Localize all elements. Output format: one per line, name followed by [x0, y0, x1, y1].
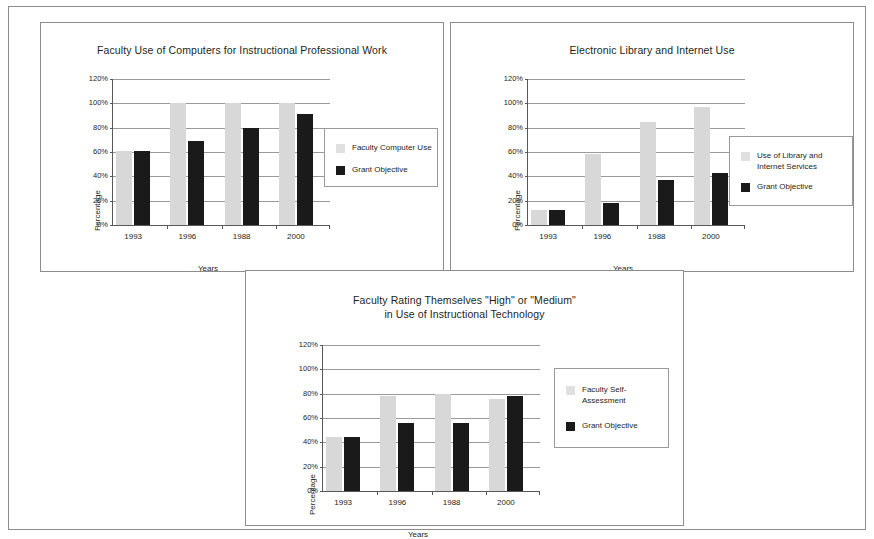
- y-axis-tick-label: 60%: [508, 148, 523, 156]
- chart-title: Electronic Library and Internet Use: [451, 44, 853, 58]
- x-axis-tick-label: 1993: [539, 232, 557, 241]
- bar-group: [222, 79, 276, 225]
- legend-label: Grant Objective: [757, 182, 813, 193]
- legend-swatch-icon: [566, 386, 575, 395]
- plot-area: 0%20%40%60%80%100%120%1993199619882000: [322, 345, 540, 492]
- legend-swatch-icon: [741, 152, 750, 161]
- chart-legend: Faculty Computer UseGrant Objective: [324, 128, 438, 187]
- legend-item: Use of Library and Internet Services: [741, 151, 822, 172]
- bar: [225, 103, 241, 225]
- plot-area: 0%20%40%60%80%100%120%1993199619882000: [112, 79, 330, 226]
- legend-label: Use of Library and Internet Services: [757, 151, 822, 172]
- x-axis-title: Years: [408, 530, 428, 539]
- bar: [453, 423, 469, 491]
- page-frame: Faculty Use of Computers for Instruction…: [8, 6, 866, 530]
- x-axis-tick-label: 1996: [593, 232, 611, 241]
- x-axis-tick-label: 1988: [233, 232, 251, 241]
- bar: [116, 151, 132, 225]
- bar-group: [323, 345, 377, 491]
- chart-legend: Faculty Self- AssessmentGrant Objective: [554, 368, 669, 448]
- bar: [344, 437, 360, 491]
- bar: [380, 396, 396, 491]
- bar: [398, 423, 414, 491]
- y-axis-tick-label: 80%: [93, 124, 108, 132]
- plot-area-wrapper: Percentage 0%20%40%60%80%100%120%1993199…: [499, 69, 747, 241]
- y-axis-tick-label: 120%: [299, 341, 318, 349]
- y-axis-tick-mark: [110, 225, 113, 226]
- legend-item: Grant Objective: [566, 421, 638, 432]
- bar: [712, 173, 728, 225]
- chart-legend: Use of Library and Internet ServicesGran…: [729, 136, 853, 206]
- x-axis-tick-mark: [276, 225, 277, 229]
- x-axis-tick-label: 2000: [497, 498, 515, 507]
- x-axis-tick-mark: [691, 225, 692, 229]
- bar: [243, 128, 259, 225]
- y-axis-tick-label: 40%: [508, 173, 523, 181]
- y-axis-tick-label: 100%: [504, 100, 523, 108]
- bar-group: [113, 79, 167, 225]
- bar: [134, 151, 150, 225]
- x-axis-tick-mark: [539, 491, 540, 495]
- legend-item: Faculty Computer Use: [336, 143, 432, 154]
- legend-swatch-icon: [336, 144, 345, 153]
- bar: [640, 122, 656, 225]
- x-axis-tick-mark: [222, 225, 223, 229]
- bar: [694, 107, 710, 225]
- legend-item: Grant Objective: [336, 165, 408, 176]
- chart-panel-faculty-computer-use: Faculty Use of Computers for Instruction…: [40, 22, 444, 272]
- y-axis-tick-label: 60%: [93, 148, 108, 156]
- bar: [603, 203, 619, 225]
- legend-item: Faculty Self- Assessment: [566, 385, 626, 406]
- x-axis-title: Years: [198, 264, 218, 273]
- y-axis-tick-label: 20%: [303, 463, 318, 471]
- legend-item: Grant Objective: [741, 182, 813, 193]
- x-axis-tick-label: 1996: [178, 232, 196, 241]
- legend-label: Grant Objective: [582, 421, 638, 432]
- x-axis-tick-mark: [486, 491, 487, 495]
- bar-group: [167, 79, 221, 225]
- bar: [435, 394, 451, 491]
- x-axis-tick-label: 2000: [702, 232, 720, 241]
- plot-area-wrapper: Percentage 0%20%40%60%80%100%120%1993199…: [84, 69, 332, 241]
- bar-group: [486, 345, 540, 491]
- bar: [170, 103, 186, 225]
- y-axis-tick-label: 0%: [512, 221, 523, 229]
- legend-label: Faculty Computer Use: [352, 143, 432, 154]
- x-axis-tick-label: 1996: [388, 498, 406, 507]
- x-axis-tick-mark: [637, 225, 638, 229]
- x-axis-tick-mark: [167, 225, 168, 229]
- y-axis-tick-mark: [320, 491, 323, 492]
- plot-area: 0%20%40%60%80%100%120%1993199619882000: [527, 79, 745, 226]
- y-axis-tick-label: 100%: [299, 366, 318, 374]
- x-axis-tick-mark: [329, 225, 330, 229]
- y-axis-tick-label: 120%: [89, 75, 108, 83]
- bar: [658, 180, 674, 225]
- bar: [279, 103, 295, 225]
- x-axis-tick-mark: [744, 225, 745, 229]
- chart-title: Faculty Rating Themselves "High" or "Med…: [246, 294, 683, 321]
- y-axis-tick-label: 100%: [89, 100, 108, 108]
- plot-area-wrapper: Percentage 0%20%40%60%80%100%120%1993199…: [294, 335, 542, 507]
- y-axis-tick-label: 40%: [93, 173, 108, 181]
- y-axis-tick-label: 60%: [303, 414, 318, 422]
- y-axis-tick-label: 40%: [303, 439, 318, 447]
- legend-label: Faculty Self- Assessment: [582, 385, 626, 406]
- chart-panel-faculty-self-rating: Faculty Rating Themselves "High" or "Med…: [245, 270, 684, 526]
- bar: [549, 210, 565, 225]
- x-axis-tick-mark: [377, 491, 378, 495]
- legend-swatch-icon: [741, 183, 750, 192]
- x-axis-tick-label: 2000: [287, 232, 305, 241]
- y-axis-tick-label: 20%: [508, 197, 523, 205]
- y-axis-tick-mark: [525, 225, 528, 226]
- chart-panel-electronic-library-internet-use: Electronic Library and Internet Use Perc…: [450, 22, 854, 272]
- bar-group: [637, 79, 691, 225]
- legend-swatch-icon: [336, 166, 345, 175]
- y-axis-tick-label: 0%: [97, 221, 108, 229]
- bar-group: [377, 345, 431, 491]
- bar: [489, 399, 505, 491]
- bar-group: [276, 79, 330, 225]
- y-axis-tick-label: 20%: [93, 197, 108, 205]
- bar: [188, 141, 204, 225]
- y-axis-tick-label: 80%: [508, 124, 523, 132]
- legend-label: Grant Objective: [352, 165, 408, 176]
